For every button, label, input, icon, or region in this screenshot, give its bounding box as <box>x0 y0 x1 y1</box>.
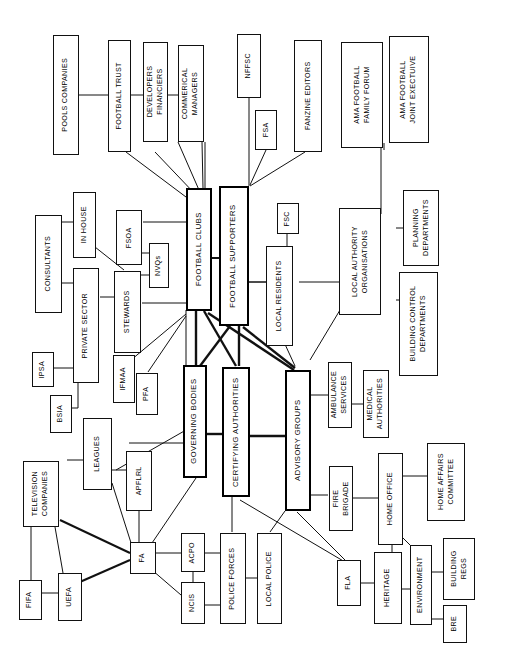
node-label-line2: BRIGADE <box>341 481 351 515</box>
node-heritage[interactable]: HERITAGE <box>374 552 402 624</box>
node-label: BUILDING CONTROL DEPARTMENTS <box>409 286 428 362</box>
node-fanzine-editors[interactable]: FANZINE EDITORS <box>294 40 322 152</box>
node-advisory-groups[interactable]: ADVISORY GROUPS <box>285 370 311 511</box>
node-stewards[interactable]: STEWARDS <box>114 271 141 353</box>
node-police-forces[interactable]: POLICE FORCES <box>220 533 246 624</box>
node-label: IFMAA <box>119 367 129 390</box>
node-label-line1: AMA FOOTBALL <box>399 60 407 118</box>
node-apflrl[interactable]: APFLRL <box>126 451 152 511</box>
node-fifa[interactable]: FIFA <box>19 580 42 620</box>
node-developers-financiers[interactable]: DEVELOPERS FINANCIERS <box>143 42 168 142</box>
node-label: PRIVATE SECTOR <box>81 293 91 359</box>
node-in-house[interactable]: IN HOUSE <box>73 192 96 258</box>
node-governing-bodies[interactable]: GOVERNING BODIES <box>183 365 207 478</box>
node-label: APFLRL <box>134 467 144 496</box>
node-label: DEVELOPERS FINANCIERS <box>146 66 165 118</box>
node-label: HOME AFFAIRS COMMITTEE <box>436 454 455 511</box>
node-consultants[interactable]: CONSULTANTS <box>35 215 62 313</box>
node-label-line1: COMMERICAL <box>181 68 189 120</box>
node-fla[interactable]: FLA <box>337 560 361 606</box>
node-label: AMBULANCE SERVICES <box>330 371 349 418</box>
node-label: POOLS COMPANIES <box>61 58 71 132</box>
node-label-line1: TELEVISION <box>31 471 39 516</box>
node-commerical-managers[interactable]: COMMERICAL MANAGERS <box>178 45 204 142</box>
node-label-line2: DEPARTMENTS <box>419 286 429 362</box>
node-pools-companies[interactable]: POOLS COMPANIES <box>53 35 79 155</box>
node-label-line1: MEDICAL <box>366 387 374 421</box>
node-home-office[interactable]: HOME OFFICE <box>378 453 403 545</box>
node-label: AMA FOOTBALL JOINT EXECTUIVE <box>399 56 418 124</box>
node-label: NVQs <box>154 255 164 275</box>
node-ifmaa[interactable]: IFMAA <box>113 355 135 403</box>
node-ama-football-joint-exectuive[interactable]: AMA FOOTBALL JOINT EXECTUIVE <box>389 36 429 143</box>
node-ipsa[interactable]: IPSA <box>32 352 54 387</box>
node-fsa[interactable]: FSA <box>255 110 277 150</box>
node-label: FOOTBALL TRUST <box>115 62 125 129</box>
node-certifying-authorities[interactable]: CERTIFYING AUTHORITIES <box>222 367 250 497</box>
node-environment[interactable]: ENVIRONMENT <box>410 545 432 625</box>
node-label-line2: FINANCIERS <box>156 66 166 118</box>
node-football-clubs[interactable]: FOOTBALL CLUBS <box>186 188 212 311</box>
node-bsia[interactable]: BSIA <box>50 395 72 433</box>
node-building-regs[interactable]: BUILDING REGS <box>443 538 475 600</box>
node-label: ENVIRONMENT <box>416 557 426 613</box>
node-label-line1: BUILDING CONTROL <box>409 286 417 362</box>
node-label-line2: ORGANISATIONS <box>360 226 370 297</box>
node-local-authority-organisations[interactable]: LOCAL AUTHORITY ORGANISATIONS <box>339 208 381 315</box>
node-label-line1: DEVELOPERS <box>146 66 154 118</box>
node-label: PFA <box>142 387 152 401</box>
node-label: GOVERNING BODIES <box>190 379 200 464</box>
node-label-line2: AUTHORITIES <box>376 378 386 430</box>
node-fsc[interactable]: FSC <box>277 203 299 234</box>
node-ama-football-family-forum[interactable]: AMA FOOTBALL FAMILY FORUM <box>341 42 383 148</box>
node-label: FSC <box>283 211 293 226</box>
node-label: FA <box>138 553 148 562</box>
node-nvqs[interactable]: NVQs <box>149 243 169 288</box>
node-label: STEWARDS <box>123 291 133 334</box>
node-private-sector[interactable]: PRIVATE SECTOR <box>73 268 99 383</box>
node-label-line1: BUILDING <box>449 551 457 587</box>
node-ncis[interactable]: NCIS <box>181 582 205 624</box>
node-label: IPSA <box>38 361 48 379</box>
node-bre[interactable]: BRE <box>443 605 467 643</box>
node-local-police[interactable]: LOCAL POLICE <box>257 533 282 624</box>
node-label: CONSULTANTS <box>44 236 54 292</box>
node-label-line2: COMMITTEE <box>446 454 456 511</box>
node-home-affairs-committee[interactable]: HOME AFFAIRS COMMITTEE <box>427 443 465 521</box>
node-uefa[interactable]: UEFA <box>58 573 82 621</box>
node-label-line1: AMBULANCE <box>330 371 338 418</box>
node-acpo[interactable]: ACPO <box>181 533 205 572</box>
node-label: LOCAL AUTHORITY ORGANISATIONS <box>350 226 369 297</box>
node-label-line2: COMPANIES <box>41 471 51 516</box>
node-planning-departments[interactable]: PLANNING DEPARTMENTS <box>403 190 439 266</box>
node-television-companies[interactable]: TELEVISION COMPANIES <box>23 461 59 527</box>
node-label: NCIS <box>188 594 198 612</box>
node-label-line2: DEPARTMENTS <box>421 200 431 257</box>
node-fsoa[interactable]: FSOA <box>116 210 142 265</box>
node-fire-brigade[interactable]: FIRE BRIGADE <box>329 466 353 531</box>
node-ambulance-services[interactable]: AMBULANCE SERVICES <box>328 362 352 428</box>
node-local-residents[interactable]: LOCAL RESIDENTS <box>266 246 293 346</box>
node-label: COMMERICAL MANAGERS <box>181 68 200 120</box>
node-label-line1: HOME AFFAIRS <box>436 454 444 511</box>
node-label-line1: FIRE <box>331 490 339 508</box>
node-label-line1: AMA FOOTBALL <box>352 66 360 124</box>
node-football-trust[interactable]: FOOTBALL TRUST <box>108 40 131 152</box>
node-pfa[interactable]: PFA <box>136 373 158 415</box>
node-medical-authorities[interactable]: MEDICAL AUTHORITIES <box>363 370 389 438</box>
node-nffsc[interactable]: NFFSC <box>237 34 261 98</box>
node-label-line2: MANAGERS <box>191 68 201 120</box>
node-leagues[interactable]: LEAGUES <box>83 418 112 490</box>
node-fa[interactable]: FA <box>130 542 156 574</box>
node-building-control-departments[interactable]: BUILDING CONTROL DEPARTMENTS <box>399 272 438 376</box>
node-label: HERITAGE <box>383 569 393 608</box>
node-label: ACPO <box>188 542 198 564</box>
node-label-line2: SERVICES <box>340 371 350 418</box>
node-label: HOME OFFICE <box>386 472 396 525</box>
node-football-supporters[interactable]: FOOTBALL SUPPORTERS <box>219 186 249 326</box>
node-label: BUILDING REGS <box>449 551 468 587</box>
node-label: CERTIFYING AUTHORITIES <box>231 377 241 487</box>
node-label-line2: JOINT EXECTUIVE <box>409 56 419 124</box>
node-label: FANZINE EDITORS <box>303 62 313 131</box>
node-label: FSA <box>261 123 271 138</box>
